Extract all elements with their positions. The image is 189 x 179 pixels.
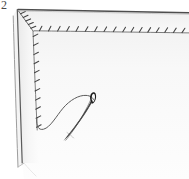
fabric-fill xyxy=(17,9,189,179)
figure-number-label: 2 xyxy=(1,0,7,12)
figure-illustration: 2 xyxy=(0,0,189,179)
illustration-canvas xyxy=(0,0,189,179)
fabric-panel xyxy=(13,9,189,179)
